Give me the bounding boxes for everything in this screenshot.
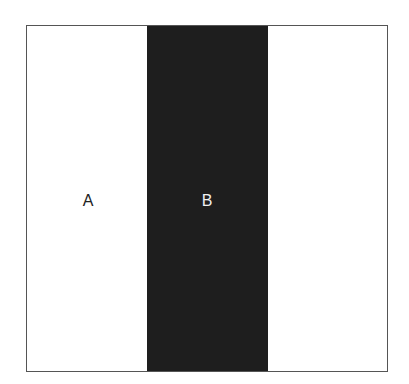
region-a-label: A [83, 192, 94, 210]
region-a: A [27, 26, 147, 371]
region-b: B [147, 26, 268, 371]
region-c [268, 26, 387, 371]
region-b-label: B [202, 192, 213, 210]
diagram-frame: A B [26, 25, 388, 372]
